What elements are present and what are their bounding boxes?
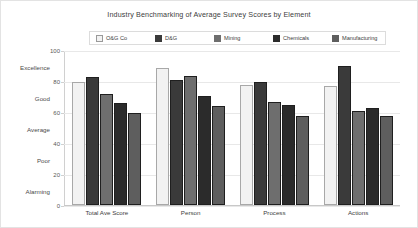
bar[interactable] [198, 96, 211, 205]
plot-area: 020406080100 ExcellenceGoodAveragePoorAl… [64, 51, 400, 206]
chart-title: Industry Benchmarking of Average Survey … [1, 10, 417, 19]
bar-group [65, 51, 149, 205]
y-axis-tick-label: 60 [53, 110, 60, 116]
y-axis-tick-mark [61, 175, 64, 176]
bar[interactable] [100, 94, 113, 205]
bar[interactable] [254, 82, 267, 205]
bar[interactable] [212, 106, 225, 205]
legend-item[interactable]: O&G Co [90, 35, 149, 42]
bar[interactable] [366, 108, 379, 205]
y-axis-tick-label: 100 [50, 48, 60, 54]
legend-label: Manufacturing [342, 35, 377, 41]
legend-item[interactable]: Chemicals [267, 35, 326, 42]
x-axis-label: Person [149, 209, 233, 221]
y-axis-band-label: Alarming [26, 187, 50, 194]
bar[interactable] [86, 77, 99, 205]
y-axis-band-label: Average [27, 125, 50, 132]
bar[interactable] [114, 103, 127, 205]
legend-swatch-icon [273, 35, 280, 42]
bar[interactable] [282, 105, 295, 205]
legend-item[interactable]: D&G [149, 35, 208, 42]
bar[interactable] [170, 80, 183, 205]
bar-group [233, 51, 317, 205]
bar[interactable] [128, 113, 141, 205]
y-axis-band-label: Excellence [20, 63, 50, 70]
x-axis-labels: Total Ave ScorePersonProcessActions [65, 209, 400, 221]
bar[interactable] [156, 68, 169, 205]
y-axis-tick-label: 0 [57, 203, 60, 209]
y-axis-tick-mark [61, 144, 64, 145]
legend-swatch-icon [332, 35, 339, 42]
legend-item[interactable]: Manufacturing [326, 35, 385, 42]
y-axis-tick-mark [61, 51, 64, 52]
x-axis-label: Process [233, 209, 317, 221]
y-axis-band-label: Good [35, 94, 50, 101]
legend-label: D&G [165, 35, 177, 41]
legend-label: Mining [224, 35, 240, 41]
bar[interactable] [240, 85, 253, 205]
bar-groups [65, 51, 400, 205]
legend-swatch-icon [214, 35, 221, 42]
bar-group [149, 51, 233, 205]
y-axis-tick-label: 80 [53, 79, 60, 85]
gridline [64, 206, 400, 207]
legend-label: Chemicals [283, 35, 309, 41]
bar[interactable] [352, 111, 365, 205]
bar[interactable] [380, 116, 393, 205]
bar[interactable] [324, 86, 337, 205]
legend-swatch-icon [155, 35, 162, 42]
y-axis-tick-label: 40 [53, 141, 60, 147]
bar[interactable] [72, 82, 85, 205]
legend-label: O&G Co [106, 35, 127, 41]
chart-legend: O&G CoD&GMiningChemicalsManufacturing [89, 31, 386, 45]
y-axis-tick-label: 20 [53, 172, 60, 178]
legend-swatch-icon [96, 35, 103, 42]
y-axis-tick-mark [61, 113, 64, 114]
y-axis-band-label: Poor [37, 156, 50, 163]
x-axis-label: Total Ave Score [65, 209, 149, 221]
bar-group [316, 51, 400, 205]
x-axis-label: Actions [316, 209, 400, 221]
y-axis-tick-mark [61, 206, 64, 207]
y-axis-tick-mark [61, 82, 64, 83]
bar[interactable] [184, 76, 197, 205]
bar[interactable] [268, 102, 281, 205]
chart-container: Industry Benchmarking of Average Survey … [0, 0, 418, 228]
legend-item[interactable]: Mining [208, 35, 267, 42]
bar[interactable] [296, 116, 309, 205]
bar[interactable] [338, 66, 351, 205]
